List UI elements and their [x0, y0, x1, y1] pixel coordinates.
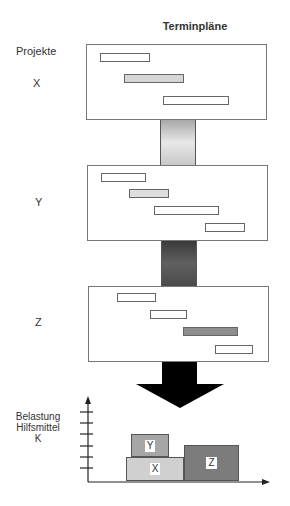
load-block-z: Z	[184, 445, 239, 481]
load-block-x: X	[126, 457, 184, 481]
x-axis-arrow-icon	[262, 479, 270, 485]
load-axis-label: Belastung Hilfsmittel K	[8, 411, 68, 444]
y-axis-arrow-icon	[85, 396, 91, 404]
load-block-label: X	[150, 463, 161, 475]
load-block-label: Z	[206, 457, 216, 469]
load-block-y: Y	[131, 434, 169, 457]
down-arrow-icon	[136, 362, 224, 408]
load-block-label: Y	[145, 440, 156, 452]
